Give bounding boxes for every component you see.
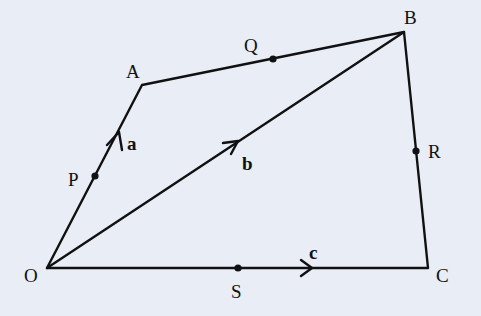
label-P: P <box>68 169 79 190</box>
label-R: R <box>428 141 441 162</box>
vector-label-c: c <box>309 242 317 263</box>
vector-label-b: b <box>242 153 253 174</box>
label-A: A <box>126 61 140 82</box>
vector-label-a: a <box>127 133 137 154</box>
point-P-dot <box>91 172 98 179</box>
point-S-dot <box>234 264 241 271</box>
label-O: O <box>24 265 38 286</box>
label-B: B <box>404 7 417 28</box>
label-C: C <box>436 265 449 286</box>
point-R-dot <box>412 147 419 154</box>
vector-quadrilateral-diagram: O A B C P Q R S a b c <box>0 0 481 316</box>
point-Q-dot <box>269 55 276 62</box>
label-Q: Q <box>244 35 258 56</box>
label-S: S <box>231 281 242 302</box>
